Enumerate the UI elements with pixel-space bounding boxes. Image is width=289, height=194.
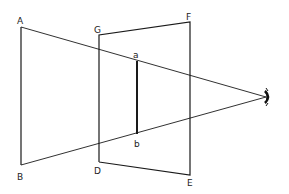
label-a-upper: A bbox=[17, 16, 24, 26]
label-e: E bbox=[187, 178, 193, 188]
label-b-upper: B bbox=[17, 172, 23, 182]
label-d: D bbox=[94, 166, 101, 176]
label-f: F bbox=[186, 12, 191, 22]
perspective-diagram: A B G F D E a b bbox=[0, 0, 289, 194]
label-b-lower: b bbox=[134, 139, 140, 149]
sight-line-b bbox=[21, 97, 266, 165]
sight-line-a bbox=[21, 27, 266, 97]
picture-plane-gfed bbox=[99, 22, 190, 175]
label-a-lower: a bbox=[133, 50, 139, 60]
label-g: G bbox=[94, 25, 101, 35]
